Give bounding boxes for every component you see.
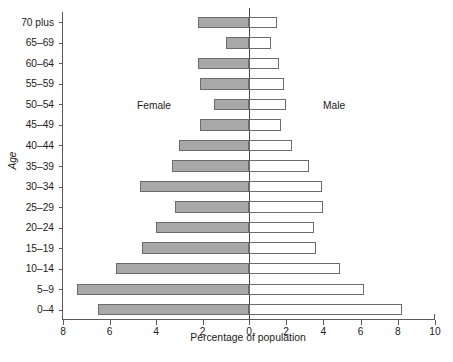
y-axis-tick-mark [59, 104, 64, 105]
x-axis-tick-mark [63, 320, 64, 325]
bar-female [214, 99, 249, 110]
bar-female [156, 222, 249, 233]
y-axis-tick-label: 60–64 [26, 58, 54, 69]
y-axis-tick-label: 20–24 [26, 222, 54, 233]
x-axis-tick-mark [361, 320, 362, 325]
bar-row [63, 135, 435, 156]
y-axis-tick-mark [59, 228, 64, 229]
bar-row [63, 74, 435, 95]
bar-female [198, 17, 249, 28]
y-axis-tick-label-group: 70 plus65–6960–6455–5950–5445–4940–4435–… [0, 12, 58, 320]
series-annotation-female: Female [137, 100, 171, 111]
bar-male [249, 78, 284, 89]
y-axis-tick-label: 65–69 [26, 37, 54, 48]
bar-row [63, 94, 435, 115]
y-axis-tick-label: 45–49 [26, 119, 54, 130]
bar-female [142, 242, 249, 253]
series-annotation-male: Male [323, 100, 345, 111]
bar-female [179, 140, 249, 151]
bar-row [63, 217, 435, 238]
y-axis-tick-mark [59, 248, 64, 249]
x-axis-tick-mark [323, 320, 324, 325]
y-axis-tick-label: 10–14 [26, 263, 54, 274]
y-axis-tick-mark [59, 145, 64, 146]
bar-female [226, 37, 249, 48]
x-axis-tick-mark [156, 320, 157, 325]
bar-male [249, 242, 316, 253]
bar-male [249, 181, 322, 192]
bar-row [63, 197, 435, 218]
bar-row [63, 238, 435, 259]
x-axis-tick-mark [110, 320, 111, 325]
bar-female [200, 78, 249, 89]
y-axis-tick-label: 15–19 [26, 243, 54, 254]
bar-male [249, 284, 364, 295]
bar-row [63, 12, 435, 33]
bar-male [249, 58, 279, 69]
y-axis-tick-label: 70 plus [21, 17, 54, 28]
bar-female [172, 160, 249, 171]
population-pyramid-chart: Age 70 plus65–6960–6455–5950–5445–4940–4… [0, 0, 453, 362]
bar-row [63, 176, 435, 197]
x-axis-tick-mark [435, 320, 436, 325]
bar-female [175, 201, 249, 212]
bar-row [63, 299, 435, 320]
bar-row [63, 279, 435, 300]
y-axis-tick-mark [59, 166, 64, 167]
bar-female [116, 263, 249, 274]
y-axis-tick-label: 0–4 [37, 304, 54, 315]
bar-male [249, 263, 340, 274]
bar-row [63, 53, 435, 74]
bar-male [249, 160, 309, 171]
y-axis-tick-mark [59, 187, 64, 188]
bar-male [249, 140, 292, 151]
bar-male [249, 304, 402, 315]
x-axis-title: Percentage of population [62, 332, 434, 343]
y-axis-tick-label: 35–39 [26, 161, 54, 172]
bar-male [249, 17, 277, 28]
bar-female [98, 304, 249, 315]
y-axis-tick-label: 30–34 [26, 181, 54, 192]
y-axis-tick-mark [59, 289, 64, 290]
bar-female [198, 58, 249, 69]
bar-row [63, 33, 435, 54]
y-axis-tick-mark [59, 310, 64, 311]
y-axis-tick-mark [59, 125, 64, 126]
bar-male [249, 222, 314, 233]
bar-female [77, 284, 249, 295]
y-axis-tick-mark [59, 63, 64, 64]
y-axis-tick-mark [59, 207, 64, 208]
bar-male [249, 99, 286, 110]
x-axis-right-end-tick [434, 314, 435, 320]
y-axis-tick-label: 5–9 [37, 284, 54, 295]
y-axis-tick-label: 40–44 [26, 140, 54, 151]
bar-female [140, 181, 249, 192]
bar-female [200, 119, 249, 130]
y-axis-tick-mark [59, 43, 64, 44]
y-axis-tick-label: 55–59 [26, 78, 54, 89]
x-axis-tick-mark [286, 320, 287, 325]
y-axis-tick-label: 50–54 [26, 99, 54, 110]
x-axis-tick-mark [203, 320, 204, 325]
y-axis-tick-label: 25–29 [26, 202, 54, 213]
bar-male [249, 201, 323, 212]
y-axis-tick-mark [59, 269, 64, 270]
plot-area: 86420246810 Female Male [62, 12, 434, 320]
y-axis-tick-mark [59, 22, 64, 23]
bar-row [63, 258, 435, 279]
bar-male [249, 37, 271, 48]
bar-male [249, 119, 281, 130]
bar-row [63, 156, 435, 177]
y-axis-tick-mark [59, 84, 64, 85]
x-axis-tick-mark [398, 320, 399, 325]
x-axis-tick-mark [249, 320, 250, 325]
bar-row [63, 115, 435, 136]
